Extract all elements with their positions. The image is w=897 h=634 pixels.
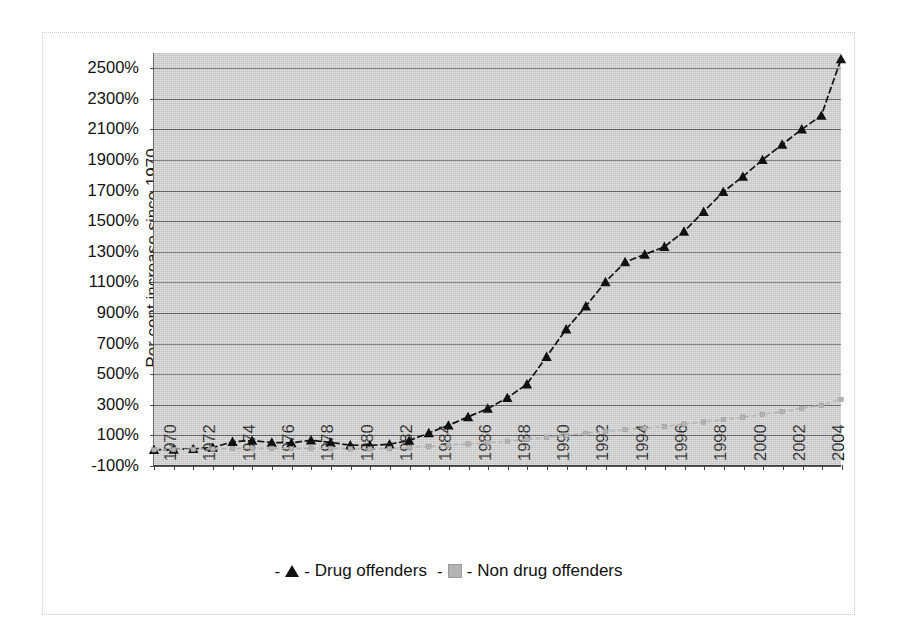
data-point-marker-square (407, 445, 411, 449)
data-point-marker-square (721, 417, 725, 421)
data-point-marker-triangle (463, 412, 473, 421)
data-point-marker-triangle (482, 403, 492, 412)
y-axis-tick-label: 500% (19, 364, 139, 383)
legend-label-drug-offenders: Drug offenders (315, 561, 427, 581)
x-axis-tick (803, 465, 804, 470)
y-axis-tick-label: -100% (19, 456, 139, 475)
data-point-marker-triangle (581, 301, 591, 310)
x-axis-tick (744, 465, 745, 470)
legend-dash-right-2: - (467, 563, 473, 580)
x-axis-tick (469, 465, 470, 470)
x-axis-tick (272, 465, 273, 470)
data-point-marker-square (270, 446, 274, 450)
y-axis-tick-label: 1300% (19, 242, 139, 261)
data-point-marker-square (780, 409, 784, 413)
y-axis-tick-label: 900% (19, 303, 139, 322)
data-point-marker-triangle (443, 420, 453, 429)
data-point-marker-triangle (836, 54, 846, 63)
data-point-marker-square (800, 406, 804, 410)
data-point-marker-square (682, 422, 686, 426)
data-point-marker-square (839, 397, 843, 401)
chart-figure: Per cent increase since 1970 2500%2300%2… (42, 32, 855, 615)
data-point-marker-square (760, 412, 764, 416)
triangle-marker-icon (285, 565, 299, 577)
x-axis-tick (370, 465, 371, 470)
data-point-marker-square (152, 448, 156, 452)
x-axis-tick (685, 465, 686, 470)
x-axis-tick (429, 465, 430, 470)
data-point-marker-square (466, 442, 470, 446)
data-point-marker-square (289, 446, 293, 450)
data-series-layer (154, 53, 841, 465)
x-axis-tick (842, 465, 843, 470)
data-point-marker-square (544, 435, 548, 439)
x-axis-tick (783, 465, 784, 470)
x-axis-tick (527, 465, 528, 470)
data-point-marker-square (643, 426, 647, 430)
data-point-marker-square (309, 446, 313, 450)
data-point-marker-square (368, 447, 372, 451)
data-point-marker-square (250, 446, 254, 450)
data-point-marker-square (525, 437, 529, 441)
x-axis-tick (645, 465, 646, 470)
legend-dash-left-2: - (437, 563, 443, 580)
series-line-non-drug-offenders (154, 399, 841, 449)
x-axis-tick (724, 465, 725, 470)
legend-dash-left: - (274, 563, 280, 580)
data-point-marker-square (230, 446, 234, 450)
y-axis-tick-label: 2300% (19, 89, 139, 108)
x-axis-tick (586, 465, 587, 470)
data-point-marker-triangle (640, 249, 650, 258)
y-axis-tick-label: 1700% (19, 181, 139, 200)
data-point-marker-triangle (816, 110, 826, 119)
x-axis-tick (822, 465, 823, 470)
data-point-marker-triangle (777, 139, 787, 148)
data-point-marker-square (211, 447, 215, 451)
y-axis-tick-label: 300% (19, 395, 139, 414)
x-axis-tick (311, 465, 312, 470)
x-axis-tick (351, 465, 352, 470)
data-point-marker-triangle (502, 393, 512, 402)
x-axis-tick (390, 465, 391, 470)
x-axis-tick (606, 465, 607, 470)
x-axis-tick (508, 465, 509, 470)
data-point-marker-square (505, 439, 509, 443)
x-axis-tick (154, 465, 155, 470)
legend-entry-drug-offenders[interactable]: - - Drug offenders (274, 561, 427, 581)
data-point-marker-square (171, 447, 175, 451)
data-point-marker-square (603, 429, 607, 433)
legend-label-non-drug-offenders: Non drug offenders (477, 561, 622, 581)
x-axis-tick (331, 465, 332, 470)
x-axis-tick (233, 465, 234, 470)
legend-entry-non-drug-offenders[interactable]: - - Non drug offenders (437, 561, 623, 581)
x-axis-tick (665, 465, 666, 470)
x-axis-tick (213, 465, 214, 470)
plot-area: 2500%2300%2100%1900%1700%1500%1300%1100%… (153, 53, 841, 466)
data-point-marker-square (584, 431, 588, 435)
y-axis-tick-label: 2500% (19, 58, 139, 77)
data-point-marker-triangle (718, 187, 728, 196)
y-axis-tick-label: 1500% (19, 211, 139, 230)
series-line-drug-offenders (154, 59, 841, 450)
data-point-marker-square (741, 415, 745, 419)
y-axis-tick-label: 100% (19, 425, 139, 444)
x-axis-tick (567, 465, 568, 470)
y-axis-tick-label: 1100% (19, 272, 139, 291)
x-axis-tick (193, 465, 194, 470)
data-point-marker-triangle (620, 257, 630, 266)
x-axis-tick (704, 465, 705, 470)
x-axis-tick (547, 465, 548, 470)
data-point-marker-square (387, 446, 391, 450)
data-point-marker-square (819, 403, 823, 407)
x-axis-tick (763, 465, 764, 470)
data-point-marker-square (701, 420, 705, 424)
data-point-marker-square (348, 447, 352, 451)
x-axis-tick (174, 465, 175, 470)
x-axis-tick (292, 465, 293, 470)
data-point-marker-square (427, 444, 431, 448)
y-axis-tick-label: 2100% (19, 119, 139, 138)
chart-legend: - - Drug offenders - - Non drug offender… (43, 561, 854, 581)
data-point-marker-triangle (797, 124, 807, 133)
data-point-marker-triangle (227, 437, 237, 446)
data-point-marker-square (662, 424, 666, 428)
